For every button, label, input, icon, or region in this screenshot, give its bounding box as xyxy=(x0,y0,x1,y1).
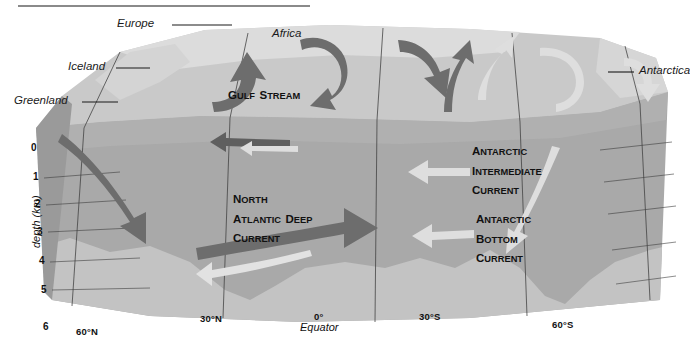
antarctic-bottom-current-line: BOTTOM xyxy=(476,228,531,248)
antarctic-bottom-current-line: CURRENT xyxy=(476,247,531,267)
place-label-iceland: Iceland xyxy=(68,60,105,72)
latitude-tick-30n: 30°N xyxy=(200,314,222,324)
antarctic-intermediate-current-line: ANTARCTIC xyxy=(472,140,542,160)
current-label-gulf-stream: GULF STREAM xyxy=(228,84,300,104)
latitude-tick-60n: 60°N xyxy=(76,327,98,337)
place-label-europe: Europe xyxy=(117,17,154,29)
depth-tick-4: 4 xyxy=(39,256,45,267)
antarctic-intermediate-current-line: CURRENT xyxy=(472,179,542,199)
depth-tick-0: 0 xyxy=(31,143,37,154)
place-label-greenland: Greenland xyxy=(14,94,68,106)
current-label-antarctic-intermediate-current: ANTARCTICINTERMEDIATECURRENT xyxy=(472,140,542,199)
north-atlantic-deep-current-line: ATLANTIC DEEP xyxy=(233,208,312,228)
equator-label: Equator xyxy=(300,322,339,334)
depth-tick-5: 5 xyxy=(41,285,47,296)
depth-tick-1: 1 xyxy=(33,172,39,183)
north-atlantic-deep-current-line: CURRENT xyxy=(233,227,312,247)
depth-tick-2: 2 xyxy=(35,199,41,210)
latitude-tick-60s: 60°S xyxy=(552,320,574,330)
gulf-stream-line: GULF STREAM xyxy=(228,84,300,104)
antarctic-intermediate-current-line: INTERMEDIATE xyxy=(472,160,542,180)
place-label-antarctica: Antarctica xyxy=(639,64,690,76)
north-atlantic-deep-current-line: NORTH xyxy=(233,188,312,208)
depth-tick-3: 3 xyxy=(37,227,43,238)
current-label-antarctic-bottom-current: ANTARCTICBOTTOMCURRENT xyxy=(476,208,531,267)
antarctic-bottom-current-line: ANTARCTIC xyxy=(476,208,531,228)
depth-tick-6: 6 xyxy=(43,322,49,333)
place-label-africa: Africa xyxy=(272,27,301,39)
latitude-tick-30s: 30°S xyxy=(419,312,441,322)
current-label-north-atlantic-deep-current: NORTHATLANTIC DEEPCURRENT xyxy=(233,188,312,247)
